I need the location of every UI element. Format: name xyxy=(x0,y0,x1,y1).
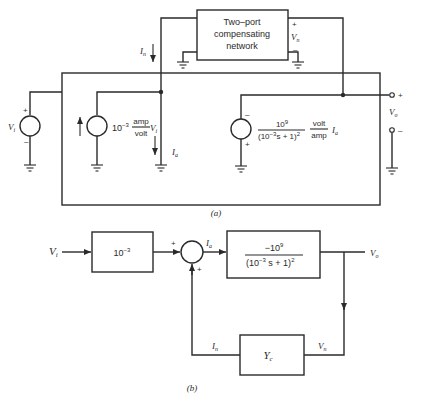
vn-label: Vn xyxy=(318,341,327,352)
vn-label: Vn xyxy=(291,32,300,43)
svg-text:Vi: Vi xyxy=(150,123,158,134)
amplifier-box xyxy=(62,73,380,205)
network-input-wire xyxy=(161,18,197,92)
svg-text:volt: volt xyxy=(135,129,148,138)
plant-denominator: (10−3 s + 1)2 xyxy=(246,257,295,268)
svg-text:109: 109 xyxy=(276,119,289,129)
svg-text:+: + xyxy=(398,91,403,100)
svg-text:+: + xyxy=(245,140,250,149)
vo-terminals: + Vo – xyxy=(386,91,403,174)
svg-text:(10−3s + 1)2: (10−3s + 1)2 xyxy=(258,131,301,141)
network-label-line1: Two–port xyxy=(223,17,261,27)
svg-text:+: + xyxy=(171,239,176,248)
circuit-figure: Two–port compensating network + Vn – In xyxy=(0,0,428,398)
svg-text:–: – xyxy=(398,126,403,135)
svg-text:–: – xyxy=(24,137,29,146)
svg-text:–: – xyxy=(245,110,250,119)
ground-icon xyxy=(292,62,304,68)
feedback-wire-left xyxy=(192,266,240,355)
vi-voltage-source: + – Vi xyxy=(8,92,62,171)
ia-label: Ia xyxy=(205,238,212,249)
svg-text:+: + xyxy=(23,106,28,115)
svg-text:amp: amp xyxy=(133,117,149,126)
feedback-block-label: Yc xyxy=(263,349,273,363)
vi-input-label: Vi xyxy=(49,245,58,259)
svg-text:volt: volt xyxy=(313,119,326,128)
network-label-line2: compensating xyxy=(214,29,270,39)
network-left-ground-wire xyxy=(183,52,197,62)
ground-icon xyxy=(155,165,167,171)
vo-minus-terminal xyxy=(390,128,395,133)
part-b-label: (b) xyxy=(187,383,198,393)
gain-value: 10−3 xyxy=(114,247,132,258)
network-label-line3: network xyxy=(226,41,258,51)
svg-text:10−3: 10−3 xyxy=(112,122,130,133)
vn-plus: + xyxy=(292,20,297,29)
block-diagram-part-b: Vi 10−3 + + Ia −109 (10−3 s + 1)2 Vo Vn … xyxy=(49,231,379,393)
svg-text:+: + xyxy=(197,265,202,274)
in-label: In xyxy=(211,341,218,352)
vo-output-label: Vo xyxy=(370,248,379,259)
summing-junction xyxy=(181,241,203,263)
two-port-network: Two–port compensating network xyxy=(197,10,288,60)
network-output-wire xyxy=(288,18,343,95)
circuit-part-a: Two–port compensating network + Vn – In xyxy=(8,10,403,218)
part-a-label: (a) xyxy=(211,208,222,218)
ia-label: Ia xyxy=(171,147,178,158)
in-label: In xyxy=(139,46,146,57)
svg-text:amp: amp xyxy=(311,131,327,140)
svg-text:Ia: Ia xyxy=(331,125,338,136)
vn-minus: – xyxy=(293,45,298,54)
svg-text:Vi: Vi xyxy=(8,122,16,133)
dependent-current-source: 10−3 amp volt Vi xyxy=(80,92,161,171)
plant-numerator: −109 xyxy=(265,242,284,253)
ground-icon xyxy=(177,62,189,68)
dependent-voltage-source: – + 109 (10−3s + 1)2 volt amp Ia xyxy=(231,93,389,172)
svg-text:Vo: Vo xyxy=(389,107,398,118)
vo-plus-terminal xyxy=(390,93,395,98)
